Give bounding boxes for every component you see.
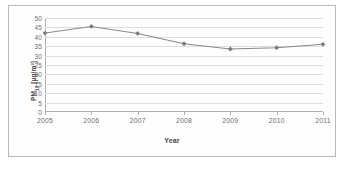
y-axis-tick-label: 10: [35, 90, 42, 97]
y-axis-tick-label: 30: [35, 52, 42, 59]
y-axis-tick-label: 25: [35, 62, 42, 69]
x-axis-tick-label: 2008: [176, 117, 192, 124]
y-axis-tick-label: 50: [35, 15, 42, 22]
data-series-layer: [45, 18, 323, 112]
x-axis-tick-mark: [230, 112, 231, 115]
y-axis-tick-label: 0: [38, 109, 42, 116]
data-point-marker: [228, 47, 233, 52]
data-point-marker: [43, 31, 48, 36]
y-axis-tick-label: 5: [38, 99, 42, 106]
x-axis-tick-mark: [184, 112, 185, 115]
x-axis-tick-label: 2011: [315, 117, 330, 124]
x-axis-tick-mark: [323, 112, 324, 115]
data-point-marker: [274, 45, 279, 50]
line-chart: PM10 [µg/m³] 05101520253035404550 200520…: [9, 6, 335, 156]
x-axis-tick-mark: [45, 112, 46, 115]
x-axis-tick-label: 2006: [83, 117, 99, 124]
x-axis-tick-mark: [91, 112, 92, 115]
x-axis-tick-label: 2009: [222, 117, 238, 124]
chart-frame: PM10 [µg/m³] 05101520253035404550 200520…: [8, 5, 336, 157]
x-axis-title: Year: [9, 137, 335, 144]
data-point-marker: [182, 41, 187, 46]
y-axis-tick-label: 35: [35, 43, 42, 50]
data-point-marker: [135, 31, 140, 36]
x-axis-tick-mark: [138, 112, 139, 115]
y-axis-tick-label: 15: [35, 80, 42, 87]
x-axis-tick-label: 2005: [37, 117, 53, 124]
data-point-marker: [89, 24, 94, 29]
x-axis-tick-label: 2007: [130, 117, 146, 124]
y-axis-tick-label: 20: [35, 71, 42, 78]
x-axis-tick-label: 2010: [269, 117, 285, 124]
x-axis-tick-mark: [277, 112, 278, 115]
y-axis-tick-label: 45: [35, 24, 42, 31]
y-axis-tick-label: 40: [35, 33, 42, 40]
plot-area: 05101520253035404550 2005200620072008200…: [45, 18, 323, 112]
data-point-marker: [321, 42, 326, 47]
